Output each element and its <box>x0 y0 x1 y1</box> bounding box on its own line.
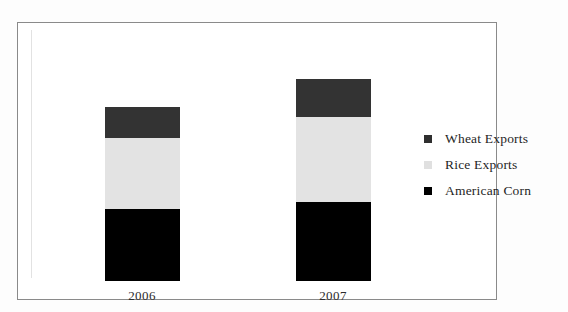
bar-segment-corn-2006[interactable] <box>105 209 180 281</box>
chart-legend: Wheat Exports Rice Exports American Corn <box>424 128 564 206</box>
legend-swatch-corn-icon <box>424 187 432 195</box>
bar-2007[interactable] <box>296 79 371 281</box>
bar-segment-corn-2007[interactable] <box>296 202 371 281</box>
legend-item-rice-exports[interactable]: Rice Exports <box>424 154 564 176</box>
chart-screenshot: 2006 2007 Wheat Exports Rice Exports Ame… <box>0 0 568 312</box>
legend-item-american-corn[interactable]: American Corn <box>424 180 564 202</box>
category-label-2007: 2007 <box>288 288 378 304</box>
legend-label-american-corn: American Corn <box>445 183 531 199</box>
legend-item-wheat-exports[interactable]: Wheat Exports <box>424 128 564 150</box>
bar-segment-wheat-2007[interactable] <box>296 79 371 117</box>
category-label-2006: 2006 <box>97 288 187 304</box>
bar-segment-wheat-2006[interactable] <box>105 107 180 138</box>
legend-swatch-rice-icon <box>424 161 432 169</box>
legend-swatch-wheat-icon <box>424 135 432 143</box>
bar-2006[interactable] <box>105 107 180 281</box>
bar-segment-rice-2006[interactable] <box>105 138 180 209</box>
legend-label-wheat-exports: Wheat Exports <box>445 131 528 147</box>
bar-segment-rice-2007[interactable] <box>296 117 371 202</box>
legend-label-rice-exports: Rice Exports <box>445 157 518 173</box>
